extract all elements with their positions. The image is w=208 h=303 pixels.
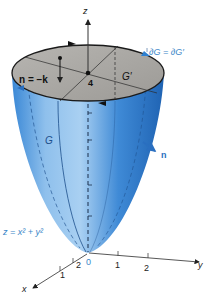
center-point: [86, 71, 91, 76]
origin-label: 0: [86, 257, 91, 267]
x-axis-label: x: [21, 284, 27, 294]
surface-equation: z = x² + y²: [2, 227, 44, 237]
y-tick-label-2: 2: [144, 263, 149, 273]
surface-label: G: [45, 135, 53, 146]
x-tick-label-1: 1: [60, 270, 65, 280]
z-axis-label: z: [82, 6, 88, 16]
height-label: 4: [88, 78, 93, 88]
y-tick-label-1: 1: [115, 260, 120, 270]
normal-top-label: n = −k: [19, 74, 48, 85]
y-axis-label: y: [197, 260, 203, 270]
paraboloid-diagram: z n = −k 4 G′ ∂G = ∂G′ G n z = x² + y² 0…: [0, 0, 208, 303]
disc-label: G′: [122, 71, 133, 82]
x-tick-label-2: 2: [76, 260, 81, 270]
side-normal-label: n: [161, 150, 167, 160]
y-axis: [89, 253, 199, 262]
boundary-equation: ∂G = ∂G′: [149, 47, 184, 57]
